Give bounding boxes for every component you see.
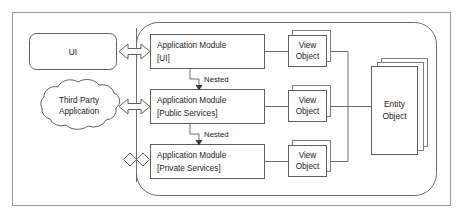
entity-object-label-line1: Entity [384,99,406,109]
application-module-ui-box[interactable] [151,35,265,69]
nested-label-public-to-private: Nested [204,130,229,139]
view-object-public-label-line1: View [299,96,317,105]
architecture-diagram: UI Third Party Application Application M… [0,0,463,220]
third-party-label-line1: Third Party [59,96,100,105]
third-party-label-line2: Application [59,107,100,116]
application-module-public-qualifier: [Public Services] [157,109,218,118]
ui-client-label: UI [69,47,77,57]
application-module-ui-title: Application Module [157,41,227,50]
view-object-ui-label-line1: View [299,41,317,50]
nested-label-ui-to-public: Nested [204,75,229,84]
application-module-private-box[interactable] [151,145,265,179]
view-object-private-label-line1: View [299,151,317,160]
entity-object-label-line2: Object [382,111,407,121]
view-object-private-label-line2: Object [296,162,320,171]
application-module-private-qualifier: [Private Services] [157,164,221,173]
application-module-public-box[interactable] [151,90,265,124]
application-module-ui-qualifier: [UI] [157,54,170,63]
application-module-private-title: Application Module [157,151,227,160]
view-object-public-label-line2: Object [296,107,320,116]
view-object-ui-label-line2: Object [296,52,320,61]
architecture-diagram-container: UI Third Party Application Application M… [0,0,463,220]
application-module-public-title: Application Module [157,96,227,105]
